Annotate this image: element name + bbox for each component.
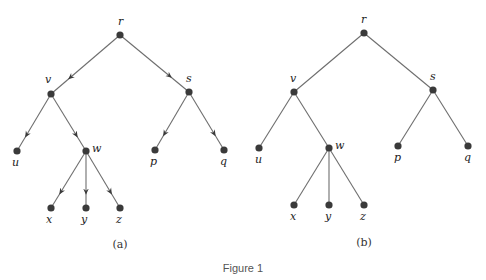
node-label-p: p (150, 155, 157, 168)
node-label-w: w (335, 139, 345, 152)
node-label-r: r (118, 15, 124, 28)
edge-r-v (51, 35, 120, 94)
edge-s-p (155, 92, 189, 150)
node-label-x: x (46, 213, 53, 226)
node-y (325, 201, 332, 208)
node-label-z: z (359, 210, 366, 223)
arrowhead-icon (166, 73, 169, 76)
edge-v-w (51, 94, 86, 151)
edge-w-z (86, 151, 120, 208)
edge-s-q (189, 92, 224, 150)
node-x (47, 204, 54, 211)
node-label-v: v (290, 72, 297, 85)
node-s (185, 88, 192, 95)
edge-s-q (433, 90, 468, 146)
edge-r-s (364, 33, 433, 90)
edge-s-p (398, 90, 433, 146)
node-v (290, 88, 297, 95)
node-v (47, 90, 54, 97)
node-p (151, 146, 158, 153)
edge-w-z (329, 148, 364, 205)
node-p (394, 142, 401, 149)
edge-w-x (294, 148, 329, 205)
node-label-s: s (430, 70, 436, 83)
edge-v-u (259, 92, 294, 148)
node-label-y: y (80, 213, 88, 226)
node-label-v: v (45, 73, 52, 86)
node-u (13, 147, 20, 154)
tree-panel-a: rvsuwpqxyz(a) (12, 15, 228, 251)
node-label-y: y (324, 210, 332, 223)
node-z (360, 201, 367, 208)
edge-r-s (120, 35, 189, 92)
node-label-u: u (12, 156, 19, 169)
edge-r-v (294, 33, 364, 92)
node-q (464, 142, 471, 149)
node-x (290, 201, 297, 208)
arrowhead-icon (70, 75, 73, 78)
node-label-u: u (255, 153, 262, 166)
node-u (255, 144, 262, 151)
node-label-x: x (290, 210, 297, 223)
node-z (116, 204, 123, 211)
node-y (82, 204, 89, 211)
node-w (325, 144, 332, 151)
node-s (429, 86, 436, 93)
panel-label-a: (a) (112, 238, 127, 251)
node-label-q: q (220, 155, 227, 168)
node-label-w: w (92, 142, 102, 155)
node-q (220, 146, 227, 153)
node-label-q: q (464, 151, 471, 164)
node-w (82, 147, 89, 154)
node-r (116, 31, 123, 38)
node-label-z: z (115, 213, 122, 226)
edge-w-x (51, 151, 86, 208)
tree-panel-b: rvsuwpqxyz(b) (255, 13, 472, 249)
figure-caption: Figure 1 (223, 262, 263, 274)
panel-label-b: (b) (356, 236, 372, 249)
node-r (360, 29, 367, 36)
node-label-s: s (186, 72, 192, 85)
node-label-r: r (361, 13, 367, 26)
edge-v-w (294, 92, 329, 148)
edge-v-u (17, 94, 51, 151)
node-label-p: p (394, 151, 401, 164)
figure-1-diagram: rvsuwpqxyz(a) rvsuwpqxyz(b) Figure 1 (0, 0, 486, 280)
